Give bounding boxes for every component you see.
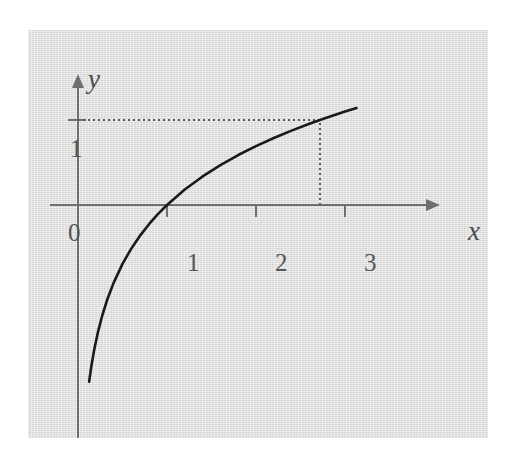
y-tick-label-0: 0 (68, 220, 81, 245)
y-tick-label-1: 1 (70, 136, 83, 161)
ln-curve (89, 108, 356, 382)
y-axis-arrowhead (72, 74, 84, 88)
figure-root: y x 1 0 1 2 3 (0, 0, 511, 457)
y-axis-label: y (88, 66, 100, 93)
x-tick-label-2: 2 (275, 250, 288, 275)
plot-panel: y x 1 0 1 2 3 (28, 30, 488, 438)
y-axis (72, 74, 84, 438)
x-axis (50, 199, 440, 211)
x-axis-label: x (468, 218, 480, 245)
x-axis-ticks (167, 205, 345, 217)
x-axis-arrowhead (426, 199, 440, 211)
x-tick-label-1: 1 (187, 250, 200, 275)
x-tick-label-3: 3 (364, 250, 377, 275)
